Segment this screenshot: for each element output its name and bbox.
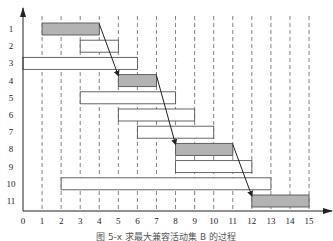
selected-activity-bar: [252, 195, 309, 207]
x-tick-label: 0: [21, 216, 26, 226]
x-tick-label: 12: [247, 216, 256, 226]
activity-selection-chart: 1234567891011 0123456789101112131415 图 5…: [0, 0, 333, 241]
activity-bar: [23, 57, 137, 69]
x-tick-label: 4: [97, 216, 102, 226]
x-tick-label: 13: [266, 216, 276, 226]
activity-bar: [137, 126, 213, 138]
y-tick-label: 9: [9, 162, 14, 172]
x-tick-labels: 0123456789101112131415: [21, 216, 314, 226]
x-tick-label: 6: [135, 216, 140, 226]
x-tick-label: 1: [40, 216, 45, 226]
activity-bar: [61, 178, 271, 190]
selected-activity-bar: [42, 23, 99, 35]
x-tick-label: 9: [192, 216, 197, 226]
selected-activity-bar: [118, 75, 156, 87]
activity-bars: [23, 23, 309, 207]
activity-bar: [118, 109, 194, 121]
y-tick-label: 2: [9, 41, 14, 51]
activity-bar: [80, 40, 118, 52]
y-tick-label: 8: [9, 144, 14, 154]
y-tick-label: 1: [9, 24, 14, 34]
x-tick-label: 15: [305, 216, 315, 226]
x-tick-label: 5: [116, 216, 121, 226]
x-tick-label: 10: [209, 216, 219, 226]
x-tick-label: 8: [173, 216, 178, 226]
y-tick-label: 5: [9, 93, 14, 103]
selected-activity-bar: [176, 143, 233, 155]
y-tick-label: 6: [9, 110, 14, 120]
y-tick-label: 7: [9, 127, 14, 137]
x-tick-label: 11: [228, 216, 237, 226]
x-tick-label: 3: [78, 216, 83, 226]
x-tick-label: 7: [154, 216, 159, 226]
y-tick-labels: 1234567891011: [7, 24, 17, 206]
y-tick-label: 4: [9, 76, 14, 86]
figure-caption: 图 5-x 求最大兼容活动集 B 的过程: [96, 231, 236, 241]
y-tick-label: 3: [9, 58, 14, 68]
y-tick-label: 10: [7, 179, 17, 189]
y-tick-label: 11: [7, 196, 16, 206]
activity-bar: [176, 161, 252, 173]
x-tick-label: 2: [59, 216, 64, 226]
x-tick-label: 14: [285, 216, 295, 226]
